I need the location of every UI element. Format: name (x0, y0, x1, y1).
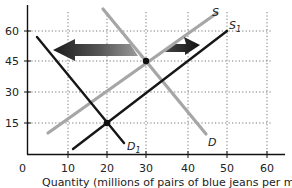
x-tick-0: 0 (19, 162, 26, 175)
x-tick-40: 40 (181, 162, 195, 175)
y-tick-60: 60 (5, 25, 19, 38)
left-arrow-icon (53, 39, 138, 61)
x-tick-60: 60 (260, 162, 274, 175)
x-tick-10: 10 (61, 162, 75, 175)
y-tick-30: 30 (5, 86, 19, 99)
x-tick-30: 30 (139, 162, 153, 175)
x-axis-title: Quantity (millions of pairs of blue jean… (42, 176, 292, 188)
supply-demand-chart: 60 45 30 15 0 10 20 30 40 50 60 Quantity… (0, 0, 292, 188)
label-d1: D1 (127, 140, 141, 155)
equilibrium-point-new (104, 120, 110, 126)
label-d: D (208, 136, 216, 149)
label-s1: S1 (229, 19, 241, 34)
y-tick-45: 45 (5, 55, 19, 68)
equilibrium-point-original (143, 58, 149, 64)
label-s: S (212, 6, 219, 19)
y-tick-15: 15 (5, 117, 19, 130)
x-tick-20: 20 (100, 162, 114, 175)
x-tick-50: 50 (220, 162, 234, 175)
